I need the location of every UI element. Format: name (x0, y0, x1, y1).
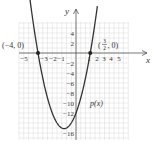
x-tick-label: 1 (87, 55, 91, 63)
y-tick-label: −10 (63, 100, 74, 108)
x-tick-label: −5 (20, 55, 28, 63)
y-tick-label: −4 (67, 70, 75, 78)
y-tick-label: −8 (67, 90, 75, 98)
fraction-denominator: 2 (103, 45, 106, 51)
x-tick-label: −2 (49, 55, 57, 63)
parabola-plot: xy−5−3−2−11234542−2−4−6−8−10−12−16p(x)(−… (0, 0, 156, 148)
x-tick-label: 5 (117, 55, 121, 63)
x-tick-label: 2 (95, 55, 99, 63)
graph-figure: xy−5−3−2−11234542−2−4−6−8−10−12−16p(x)(−… (0, 0, 156, 148)
x-tick-label: −1 (57, 55, 65, 63)
point-label-neg4: (−4, 0) (2, 41, 24, 50)
x-tick-label: −3 (40, 55, 48, 63)
x-axis-label: x (145, 55, 150, 65)
y-tick-label: −12 (63, 110, 74, 118)
x-tick-label: 3 (102, 55, 106, 63)
y-axis-label: y (64, 6, 69, 16)
x-tick-label: 4 (109, 55, 113, 63)
y-tick-label: 2 (71, 40, 75, 48)
function-label: p(x) (89, 99, 103, 108)
point-label-close: , 0) (108, 41, 119, 50)
y-tick-label: −16 (63, 130, 74, 138)
point-label-open: ( (98, 41, 101, 50)
fraction-numerator: 3 (103, 38, 106, 44)
y-tick-label: −6 (67, 80, 75, 88)
y-tick-label: −2 (67, 60, 75, 68)
y-tick-label: 4 (71, 30, 75, 38)
